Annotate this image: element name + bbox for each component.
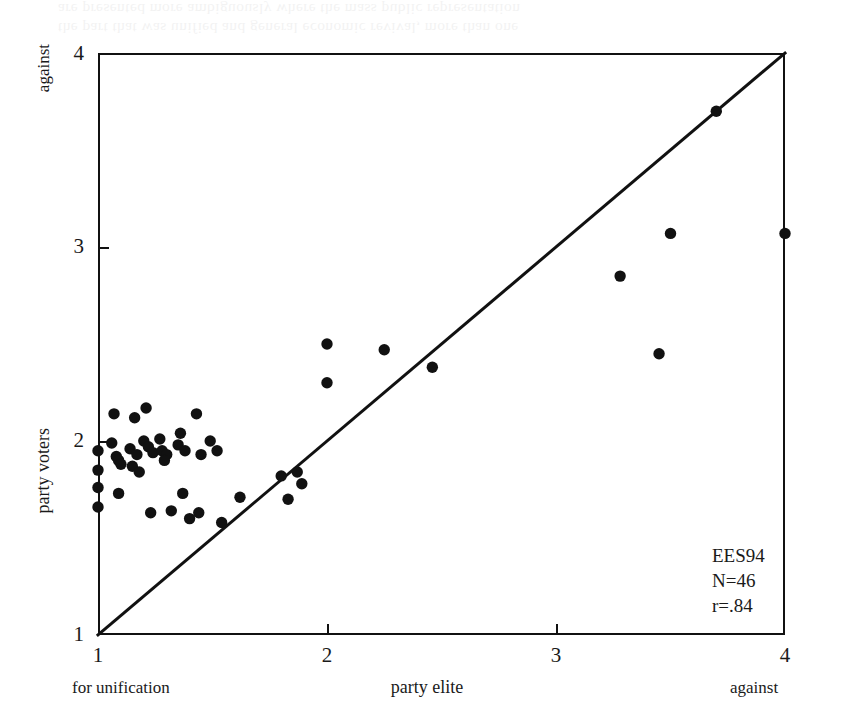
- data-point: [205, 435, 216, 446]
- identity-reference-line: [98, 53, 785, 635]
- data-point: [113, 488, 124, 499]
- data-point: [195, 449, 206, 460]
- data-point: [159, 455, 170, 466]
- data-point: [179, 445, 190, 456]
- x-tick-label-4: 4: [765, 645, 805, 666]
- x-axis-right-label: against: [730, 678, 820, 697]
- data-point: [321, 338, 332, 349]
- data-point: [234, 492, 245, 503]
- x-axis-title: party elite: [0, 678, 854, 697]
- data-point: [129, 412, 140, 423]
- data-point: [379, 344, 390, 355]
- data-point: [166, 505, 177, 516]
- data-point: [296, 478, 307, 489]
- y-tick-mark-3: [98, 247, 109, 249]
- data-point: [779, 228, 790, 239]
- data-point: [653, 348, 664, 359]
- data-point: [92, 464, 103, 475]
- data-point: [92, 445, 103, 456]
- data-point: [282, 494, 293, 505]
- annotation-correlation: r=.84: [712, 593, 765, 618]
- data-point: [292, 466, 303, 477]
- x-tick-mark-3: [556, 624, 558, 635]
- data-point: [614, 270, 625, 281]
- annotation-sample-size: N=46: [712, 568, 765, 593]
- data-point: [92, 482, 103, 493]
- x-tick-mark-2: [327, 624, 329, 635]
- data-point: [665, 228, 676, 239]
- data-point: [134, 466, 145, 477]
- data-point: [92, 501, 103, 512]
- data-point: [711, 106, 722, 117]
- data-point: [216, 517, 227, 528]
- data-point: [108, 408, 119, 419]
- chart-annotation-block: EES94 N=46 r=.84: [712, 543, 765, 618]
- data-point: [131, 449, 142, 460]
- y-tick-label-2: 2: [58, 430, 84, 451]
- data-point: [154, 433, 165, 444]
- data-point: [276, 470, 287, 481]
- data-point: [140, 402, 151, 413]
- data-point: [177, 488, 188, 499]
- scatter-plot-figure: 4 3 2 1 1 2 3 4 against party voters for…: [0, 0, 854, 728]
- data-point: [321, 377, 332, 388]
- data-points-group: [92, 106, 790, 529]
- y-tick-label-1: 1: [58, 624, 84, 645]
- x-tick-label-1: 1: [78, 645, 118, 666]
- y-tick-label-4: 4: [58, 43, 84, 64]
- x-tick-label-2: 2: [307, 645, 347, 666]
- x-tick-label-3: 3: [536, 645, 576, 666]
- data-point: [427, 362, 438, 373]
- data-point: [115, 459, 126, 470]
- data-point: [193, 507, 204, 518]
- data-point: [175, 428, 186, 439]
- data-point: [145, 507, 156, 518]
- data-point: [211, 445, 222, 456]
- plot-data-layer: [98, 53, 785, 635]
- y-tick-mark-2: [98, 441, 109, 443]
- y-axis-title: party voters: [34, 428, 53, 513]
- annotation-study-label: EES94: [712, 543, 765, 568]
- y-axis-top-label: against: [34, 44, 53, 92]
- y-tick-label-3: 3: [58, 236, 84, 257]
- data-point: [191, 408, 202, 419]
